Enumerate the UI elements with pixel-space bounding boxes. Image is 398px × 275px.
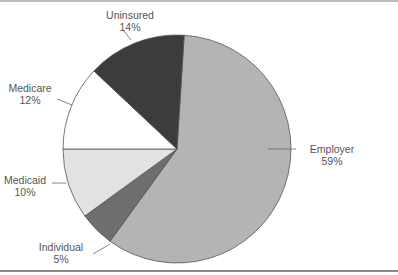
bottom-rule — [0, 270, 398, 272]
label-medicaid: Medicaid 10% — [0, 174, 50, 198]
label-text: Employer — [302, 143, 362, 155]
label-text: Medicaid — [0, 174, 50, 186]
pie-chart — [0, 0, 398, 275]
label-pct: 14% — [100, 21, 160, 33]
label-text: Individual — [31, 241, 91, 253]
label-uninsured: Uninsured 14% — [100, 9, 160, 33]
label-employer: Employer 59% — [302, 143, 362, 167]
label-individual: Individual 5% — [31, 241, 91, 265]
label-pct: 5% — [31, 253, 91, 265]
label-text: Medicare — [0, 82, 60, 94]
label-pct: 12% — [0, 94, 60, 106]
label-text: Uninsured — [100, 9, 160, 21]
label-pct: 59% — [302, 155, 362, 167]
label-medicare: Medicare 12% — [0, 82, 60, 106]
label-pct: 10% — [0, 186, 50, 198]
leader-line — [93, 244, 110, 254]
